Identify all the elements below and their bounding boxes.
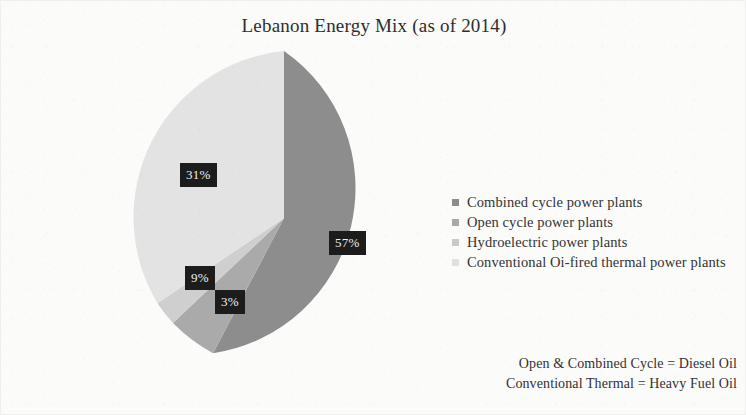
- legend-swatch-icon: [452, 219, 459, 226]
- footnote-line-2: Conventional Thermal = Heavy Fuel Oil: [506, 374, 737, 394]
- legend-swatch-icon: [452, 259, 459, 266]
- data-label-combined-cycle: 57%: [329, 231, 366, 255]
- legend-item-combined-cycle[interactable]: Combined cycle power plants: [452, 193, 744, 212]
- data-label-hydroelectric: 3%: [215, 290, 245, 314]
- legend-item-hydroelectric[interactable]: Hydroelectric power plants: [452, 233, 744, 252]
- legend-item-open-cycle[interactable]: Open cycle power plants: [452, 213, 744, 232]
- legend-item-conventional-thermal[interactable]: Conventional Oi-fired thermal power plan…: [452, 253, 744, 272]
- data-label-conventional-thermal: 31%: [180, 163, 217, 187]
- pie-chart-area: 31% 57% 9% 3%: [117, 51, 451, 385]
- pie-chart-svg: [117, 51, 451, 385]
- legend-item-label: Conventional Oi-fired thermal power plan…: [467, 254, 726, 271]
- legend-swatch-icon: [452, 199, 459, 206]
- legend-item-label: Open cycle power plants: [467, 214, 613, 231]
- chart-legend: Combined cycle power plants Open cycle p…: [452, 193, 744, 273]
- legend-item-label: Hydroelectric power plants: [467, 234, 627, 251]
- data-label-open-cycle: 9%: [185, 266, 215, 290]
- chart-title: Lebanon Energy Mix (as of 2014): [1, 15, 746, 37]
- footnote-line-1: Open & Combined Cycle = Diesel Oil: [506, 354, 737, 374]
- chart-footnote: Open & Combined Cycle = Diesel Oil Conve…: [506, 354, 737, 394]
- chart-page: Lebanon Energy Mix (as of 2014) 31% 57% …: [0, 0, 746, 415]
- legend-swatch-icon: [452, 239, 459, 246]
- legend-item-label: Combined cycle power plants: [467, 194, 642, 211]
